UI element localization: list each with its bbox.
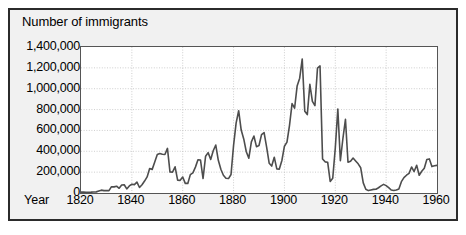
x-tick-label: 1940 xyxy=(363,193,407,207)
y-tick-label: 400,000 xyxy=(6,144,80,156)
y-tick-label: 600,000 xyxy=(6,123,80,135)
x-tick-label: 1920 xyxy=(312,193,356,207)
x-tick-label: 1960 xyxy=(414,193,458,207)
x-tick-label: 1840 xyxy=(109,193,153,207)
y-tick-label: 200,000 xyxy=(6,165,80,177)
x-axis-label: Year xyxy=(24,193,49,207)
x-tick-label: 1880 xyxy=(211,193,255,207)
immigration-line-chart xyxy=(81,47,437,193)
y-tick-label: 1,000,000 xyxy=(6,82,80,94)
y-tick-label: 1,400,000 xyxy=(6,40,80,52)
y-tick-label: 800,000 xyxy=(6,103,80,115)
chart-figure: Number of immigrants 0200,000400,000600,… xyxy=(8,8,458,221)
gridlines xyxy=(81,47,437,193)
x-tick-label: 1860 xyxy=(160,193,204,207)
x-tick-label: 1820 xyxy=(58,193,102,207)
y-axis-tick-labels: 0200,000400,000600,000800,0001,000,0001,… xyxy=(10,10,80,223)
x-tick-label: 1900 xyxy=(261,193,305,207)
y-tick-label: 1,200,000 xyxy=(6,61,80,73)
plot-area xyxy=(80,46,438,194)
